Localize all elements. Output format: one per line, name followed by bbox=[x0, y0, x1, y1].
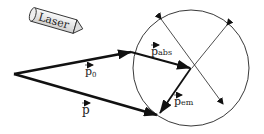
label-p: p bbox=[82, 103, 90, 117]
laser-icon: Laser bbox=[28, 7, 85, 36]
diagonal-arrow-a bbox=[161, 19, 223, 104]
svg-text:em: em bbox=[181, 98, 194, 107]
label-pem: p em bbox=[174, 95, 194, 108]
vector-p0 bbox=[14, 52, 131, 74]
label-p0: p 0 bbox=[85, 65, 96, 79]
svg-text:p: p bbox=[85, 65, 92, 78]
laser-label: Laser bbox=[37, 10, 71, 31]
diagram-canvas: Laser p 0 p p abs p em bbox=[0, 0, 264, 134]
vector-diagram: Laser p 0 p p abs p em bbox=[0, 0, 264, 134]
svg-text:abs: abs bbox=[158, 48, 172, 57]
svg-text:0: 0 bbox=[92, 71, 96, 79]
label-pabs: p abs bbox=[151, 45, 172, 58]
diagonal-arrow-b bbox=[192, 25, 227, 68]
svg-text:p: p bbox=[174, 95, 181, 108]
svg-text:p: p bbox=[82, 103, 90, 117]
svg-text:p: p bbox=[151, 45, 158, 58]
